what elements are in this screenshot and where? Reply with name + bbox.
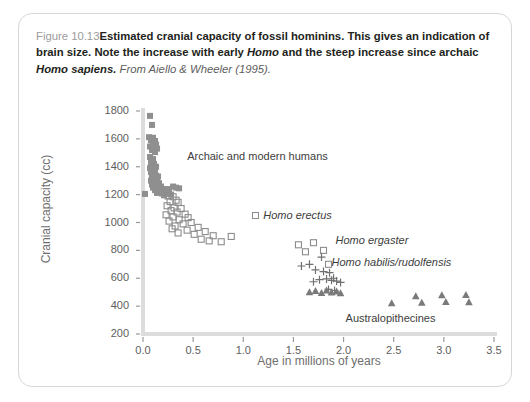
- y-tick-label: 1600: [91, 132, 129, 144]
- caption-bold-part-2: and the steep increase since archaic: [279, 46, 479, 58]
- data-point: [316, 276, 324, 284]
- y-axis-title: Cranial capacity (cc): [39, 129, 53, 289]
- open-square-icon: [252, 212, 259, 219]
- data-point: [297, 262, 305, 270]
- data-point: [202, 229, 208, 235]
- axis-ticks: [136, 111, 494, 342]
- data-point: [295, 242, 301, 248]
- caption-source: From Aiello & Wheeler (1995).: [116, 63, 271, 75]
- data-point: [311, 266, 319, 274]
- data-point: [309, 278, 317, 286]
- data-point: [165, 186, 171, 192]
- data-point: [147, 113, 153, 119]
- data-point: [302, 249, 308, 255]
- y-tick-label: 1200: [91, 188, 129, 200]
- annotation-label: Homo erectus: [263, 209, 331, 221]
- annotation-label: Australopithecines: [346, 312, 436, 324]
- data-point: [318, 253, 326, 261]
- data-point: [312, 287, 320, 294]
- data-point: [149, 122, 155, 128]
- figure-card: Figure 10.13Estimated cranial capacity o…: [18, 13, 512, 387]
- plot-annotation: Australopithecines: [346, 312, 436, 324]
- data-point: [465, 298, 473, 305]
- data-point: [180, 221, 186, 227]
- y-tick-label: 1400: [91, 160, 129, 172]
- data-point: [306, 288, 314, 295]
- y-tick-label: 600: [91, 271, 129, 283]
- data-point: [337, 278, 345, 286]
- data-point: [412, 292, 420, 299]
- data-point: [142, 191, 148, 197]
- data-point: [418, 299, 426, 306]
- annotation-label: Homo ergaster: [336, 234, 409, 246]
- figure-caption: Figure 10.13Estimated cranial capacity o…: [36, 28, 494, 77]
- data-point: [176, 185, 182, 191]
- data-point: [184, 227, 190, 233]
- plot-annotation: Homo erectus: [252, 209, 331, 221]
- data-point: [321, 247, 327, 253]
- x-axis-title: Age in millions of years: [143, 354, 495, 368]
- y-tick-label: 200: [91, 327, 129, 339]
- data-point: [328, 276, 336, 284]
- plot-annotation: Homo ergaster: [336, 234, 409, 246]
- data-point: [323, 287, 331, 294]
- data-point: [442, 298, 450, 305]
- annotation-label: Archaic and modern humans: [187, 150, 328, 162]
- annotation-label: Homo habilis/rudolfensis: [332, 256, 452, 268]
- scatter-plot: 200400600800100012001400160018000.00.51.…: [19, 92, 511, 386]
- data-point: [166, 218, 172, 224]
- data-point: [305, 260, 313, 268]
- data-point: [175, 230, 181, 236]
- y-tick-label: 1800: [91, 104, 129, 116]
- plot-annotation: Archaic and modern humans: [187, 150, 328, 162]
- data-point: [228, 233, 234, 239]
- data-point: [198, 236, 204, 242]
- data-point: [195, 224, 201, 230]
- data-point: [462, 291, 470, 298]
- data-point: [388, 299, 396, 306]
- figure-number: Figure 10.13: [36, 30, 99, 42]
- data-point: [191, 231, 197, 237]
- plot-annotation: Homo habilis/rudolfensis: [332, 256, 452, 268]
- y-tick-label: 800: [91, 243, 129, 255]
- data-point: [176, 217, 182, 223]
- data-point: [438, 291, 446, 298]
- y-tick-label: 400: [91, 299, 129, 311]
- data-point: [320, 268, 328, 276]
- y-tick-label: 1000: [91, 216, 129, 228]
- caption-italic-homo-sapiens: Homo sapiens.: [36, 63, 116, 75]
- caption-italic-homo-1: Homo: [247, 46, 279, 58]
- data-point: [218, 239, 224, 245]
- data-point: [310, 240, 316, 246]
